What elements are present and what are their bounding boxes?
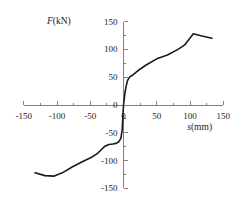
x-axis-title: s(mm)	[187, 122, 212, 133]
y-tick-label: 0	[0, 100, 118, 110]
x-tick-label: 150	[217, 111, 231, 121]
x-tick-label: 100	[183, 111, 197, 121]
y-tick-label: 100	[0, 44, 118, 54]
x-tick-label: -150	[16, 111, 33, 121]
y-tick-label: -100	[0, 156, 118, 166]
y-tick-label: -150	[0, 183, 118, 193]
y-tick-label: -50	[0, 128, 118, 138]
x-tick-label: 50	[152, 111, 161, 121]
x-tick-label: -100	[49, 111, 66, 121]
x-tick-label: 0	[121, 111, 126, 121]
y-tick-label: 50	[0, 72, 118, 82]
x-axis-title-unit: (mm)	[191, 122, 212, 132]
load-displacement-chart: -150 -100 -50 0 50 100 150 150 100 50 0 …	[0, 0, 246, 199]
y-axis-title: F(kN)	[47, 16, 71, 27]
x-tick-label: -50	[84, 111, 96, 121]
y-axis-title-unit: (kN)	[53, 16, 71, 26]
